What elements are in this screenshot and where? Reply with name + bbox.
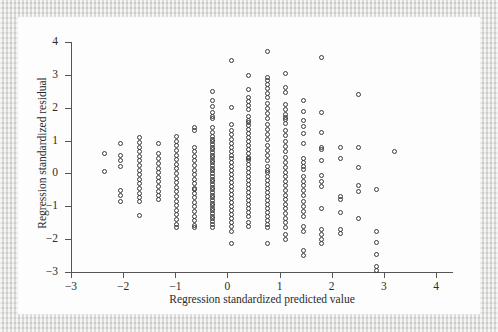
data-point	[265, 148, 270, 153]
data-point	[265, 95, 270, 100]
data-point	[265, 111, 270, 116]
data-point	[229, 122, 234, 127]
data-point	[319, 173, 324, 178]
data-point	[265, 143, 270, 148]
data-point	[265, 116, 270, 121]
data-point	[192, 225, 197, 230]
data-point	[301, 204, 306, 209]
data-point	[102, 151, 107, 156]
data-point	[229, 224, 234, 229]
data-point	[283, 155, 288, 160]
x-axis-title: Regression standardized predicted value	[71, 293, 453, 305]
data-point	[301, 199, 306, 204]
data-point	[137, 213, 142, 218]
data-point	[319, 184, 324, 189]
data-point	[301, 98, 306, 103]
data-point	[301, 109, 306, 114]
data-point	[283, 85, 288, 90]
data-point	[301, 193, 306, 198]
data-point	[283, 139, 288, 144]
data-point	[210, 225, 215, 230]
data-point	[301, 214, 306, 219]
data-point	[210, 116, 215, 121]
data-point	[102, 169, 107, 174]
data-point	[156, 156, 161, 161]
data-point	[301, 118, 306, 123]
data-point	[283, 225, 288, 230]
data-point	[265, 132, 270, 137]
data-point	[356, 145, 361, 150]
data-point	[246, 224, 251, 229]
data-point	[374, 229, 379, 234]
data-point	[319, 206, 324, 211]
data-point	[265, 225, 270, 230]
data-point	[301, 167, 306, 172]
data-point	[265, 158, 270, 163]
data-point	[356, 216, 361, 221]
data-point	[118, 158, 123, 163]
data-point	[174, 225, 179, 230]
data-point	[356, 92, 361, 97]
data-point	[265, 153, 270, 158]
y-axis-title: Regression standardized residual	[36, 43, 48, 263]
data-point	[356, 189, 361, 194]
data-point	[301, 229, 306, 234]
data-point	[229, 241, 234, 246]
data-point	[118, 141, 123, 146]
data-point	[283, 232, 288, 237]
data-point	[265, 137, 270, 142]
data-point	[283, 237, 288, 242]
data-point	[265, 127, 270, 132]
data-point	[319, 55, 324, 60]
data-point	[192, 128, 197, 133]
data-point	[301, 141, 306, 146]
data-point	[338, 197, 343, 202]
data-point	[338, 210, 343, 215]
data-point	[137, 199, 142, 204]
data-point	[283, 144, 288, 149]
data-point	[301, 253, 306, 258]
data-point	[118, 199, 123, 204]
data-point	[118, 193, 123, 198]
scatter-plot: −3−2−101234 −3−2−101234 Regression stand…	[18, 17, 480, 314]
data-point	[283, 71, 288, 76]
figure-card: −3−2−101234 −3−2−101234 Regression stand…	[18, 17, 480, 314]
data-point	[229, 105, 234, 110]
data-point	[283, 160, 288, 165]
data-point	[265, 106, 270, 111]
data-point	[338, 145, 343, 150]
data-point	[319, 158, 324, 163]
data-point	[301, 131, 306, 136]
data-point	[156, 141, 161, 146]
data-point	[283, 107, 288, 112]
data-point	[301, 224, 306, 229]
data-point	[283, 128, 288, 133]
data-point	[246, 73, 251, 78]
data-point	[301, 209, 306, 214]
data-point	[319, 147, 324, 152]
data-point	[210, 89, 215, 94]
data-point	[356, 183, 361, 188]
data-point	[246, 107, 251, 112]
data-point	[265, 49, 270, 54]
data-point	[265, 241, 270, 246]
data-point	[246, 87, 251, 92]
data-point	[156, 151, 161, 156]
data-point	[374, 268, 379, 273]
data-point	[210, 98, 215, 103]
data-point	[356, 165, 361, 170]
data-points-layer	[18, 17, 480, 314]
data-point	[319, 110, 324, 115]
data-point	[338, 156, 343, 161]
data-point	[319, 241, 324, 246]
data-point	[301, 124, 306, 129]
data-point	[156, 197, 161, 202]
data-point	[118, 188, 123, 193]
data-point	[301, 188, 306, 193]
data-point	[283, 90, 288, 95]
data-point	[137, 140, 142, 145]
data-point	[374, 187, 379, 192]
data-point	[319, 130, 324, 135]
data-point	[283, 133, 288, 138]
data-point	[229, 58, 234, 63]
